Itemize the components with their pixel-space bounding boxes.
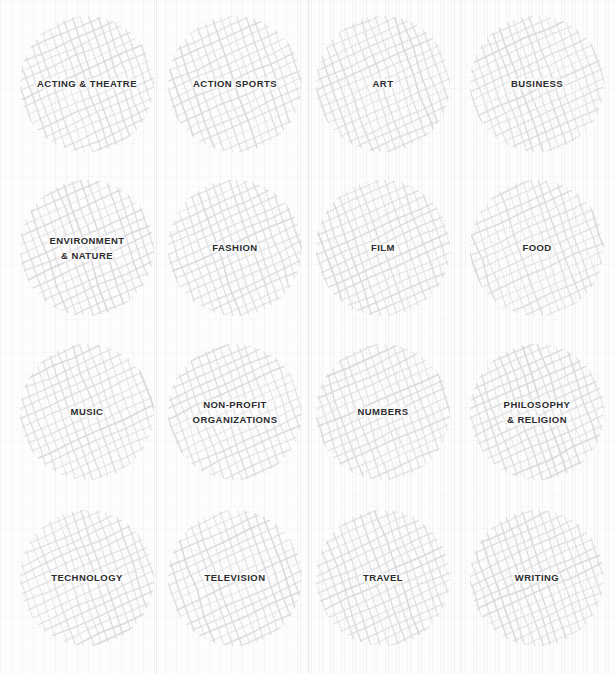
- crosshatch-circle-icon: [168, 16, 302, 152]
- category-cell-food[interactable]: FOOD: [463, 166, 611, 330]
- category-cell-television[interactable]: TELEVISION: [161, 496, 309, 660]
- category-disc-music[interactable]: [20, 344, 154, 480]
- category-disc-technology[interactable]: [20, 510, 154, 646]
- background-column-divider-3: [460, 0, 461, 674]
- category-disc-film[interactable]: [316, 180, 450, 316]
- category-cell-technology[interactable]: TECHNOLOGY: [13, 496, 161, 660]
- crosshatch-circle-icon: [316, 180, 450, 316]
- category-cell-travel[interactable]: TRAVEL: [309, 496, 457, 660]
- category-disc-art[interactable]: [316, 16, 450, 152]
- category-cell-numbers[interactable]: NUMBERS: [309, 330, 457, 494]
- crosshatch-circle-icon: [316, 344, 450, 480]
- category-cell-film[interactable]: FILM: [309, 166, 457, 330]
- category-grid-page: ACTING & THEATREACTION SPORTSARTBUSINESS…: [0, 0, 616, 674]
- category-cell-environment-and-nature[interactable]: ENVIRONMENT & NATURE: [13, 166, 161, 330]
- crosshatch-circle-icon: [168, 510, 302, 646]
- crosshatch-circle-icon: [168, 344, 302, 480]
- category-cell-non-profit-organizations[interactable]: NON-PROFIT ORGANIZATIONS: [161, 330, 309, 494]
- category-disc-non-profit-organizations[interactable]: [168, 344, 302, 480]
- category-disc-travel[interactable]: [316, 510, 450, 646]
- category-disc-philosophy-and-religion[interactable]: [470, 344, 604, 480]
- category-cell-philosophy-and-religion[interactable]: PHILOSOPHY & RELIGION: [463, 330, 611, 494]
- category-cell-business[interactable]: BUSINESS: [463, 2, 611, 166]
- category-disc-television[interactable]: [168, 510, 302, 646]
- category-disc-writing[interactable]: [470, 510, 604, 646]
- crosshatch-circle-icon: [470, 16, 604, 152]
- crosshatch-circle-icon: [20, 344, 154, 480]
- crosshatch-circle-icon: [20, 180, 154, 316]
- category-cell-acting-and-theatre[interactable]: ACTING & THEATRE: [13, 2, 161, 166]
- crosshatch-circle-icon: [470, 180, 604, 316]
- crosshatch-circle-icon: [316, 16, 450, 152]
- crosshatch-circle-icon: [20, 16, 154, 152]
- category-disc-fashion[interactable]: [168, 180, 302, 316]
- category-cell-action-sports[interactable]: ACTION SPORTS: [161, 2, 309, 166]
- crosshatch-circle-icon: [20, 510, 154, 646]
- category-cell-art[interactable]: ART: [309, 2, 457, 166]
- crosshatch-circle-icon: [470, 344, 604, 480]
- category-disc-numbers[interactable]: [316, 344, 450, 480]
- category-disc-action-sports[interactable]: [168, 16, 302, 152]
- category-disc-environment-and-nature[interactable]: [20, 180, 154, 316]
- category-disc-food[interactable]: [470, 180, 604, 316]
- crosshatch-circle-icon: [316, 510, 450, 646]
- category-cell-fashion[interactable]: FASHION: [161, 166, 309, 330]
- crosshatch-circle-icon: [470, 510, 604, 646]
- category-cell-music[interactable]: MUSIC: [13, 330, 161, 494]
- category-disc-acting-and-theatre[interactable]: [20, 16, 154, 152]
- crosshatch-circle-icon: [168, 180, 302, 316]
- category-disc-business[interactable]: [470, 16, 604, 152]
- category-cell-writing[interactable]: WRITING: [463, 496, 611, 660]
